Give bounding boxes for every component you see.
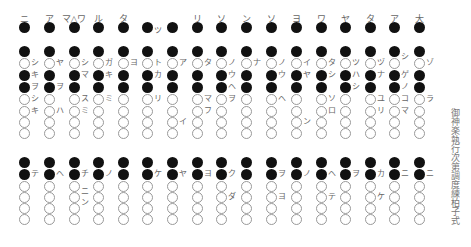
hole-open-icon xyxy=(44,181,55,192)
hole-open-icon xyxy=(365,181,376,192)
hole-open-icon xyxy=(167,203,178,214)
syllable-label: ヲ xyxy=(278,169,286,178)
hole-closed-icon xyxy=(266,46,277,57)
hole-closed-icon xyxy=(266,22,277,33)
hole-closed-icon xyxy=(414,22,425,33)
hole-open-icon xyxy=(93,128,104,139)
hole-open-icon xyxy=(389,106,400,117)
hole-closed-icon xyxy=(167,82,178,93)
hole-open-icon xyxy=(19,203,30,214)
hole-closed-icon xyxy=(241,22,252,33)
hole-closed-icon xyxy=(241,169,252,180)
syllable-label: ン xyxy=(81,198,89,207)
hole-open-icon xyxy=(216,203,227,214)
syllable-label: シ xyxy=(352,82,360,91)
hole-closed-icon xyxy=(142,157,153,168)
hole-open-icon xyxy=(241,214,252,225)
hole-open-icon xyxy=(44,214,55,225)
hole-closed-icon xyxy=(118,169,129,180)
hole-open-icon xyxy=(414,181,425,192)
hole-open-icon xyxy=(316,181,327,192)
syllable-label: マ xyxy=(204,94,212,103)
hole-closed-icon xyxy=(340,46,351,57)
hole-open-icon xyxy=(340,214,351,225)
hole-open-icon xyxy=(241,181,252,192)
hole-closed-icon xyxy=(167,46,178,57)
hole-closed-icon xyxy=(118,82,129,93)
hole-closed-icon xyxy=(389,169,400,180)
hole-open-icon xyxy=(365,214,376,225)
syllable-label: ン xyxy=(303,117,311,126)
hole-closed-icon xyxy=(365,169,376,180)
hole-closed-icon xyxy=(142,22,153,33)
hole-open-icon xyxy=(216,128,227,139)
hole-closed-icon xyxy=(291,157,302,168)
hole-closed-icon xyxy=(216,82,227,93)
hole-closed-icon xyxy=(118,70,129,81)
syllable-label: タ xyxy=(328,58,336,67)
hole-open-icon xyxy=(192,106,203,117)
hole-open-icon xyxy=(241,94,252,105)
hole-closed-icon xyxy=(414,70,425,81)
hole-closed-icon xyxy=(340,70,351,81)
hole-open-icon xyxy=(69,117,80,128)
hole-open-icon xyxy=(142,128,153,139)
hole-open-icon xyxy=(167,192,178,203)
syllable-label: イ xyxy=(303,58,311,67)
hole-open-icon xyxy=(340,203,351,214)
hole-open-icon xyxy=(118,58,129,69)
hole-closed-icon xyxy=(316,46,327,57)
hole-open-icon xyxy=(44,203,55,214)
syllable-label: ラ xyxy=(426,94,434,103)
syllable-label: ロ xyxy=(328,106,336,115)
syllable-label: ヨ xyxy=(204,169,212,178)
hole-open-icon xyxy=(19,214,30,225)
hole-open-icon xyxy=(69,128,80,139)
syllable-label: ヤ xyxy=(303,70,311,79)
hole-closed-icon xyxy=(266,82,277,93)
hole-open-icon xyxy=(142,203,153,214)
hole-closed-icon xyxy=(291,70,302,81)
syllable-label: フ xyxy=(204,106,212,115)
syllable-label: ノ xyxy=(228,58,236,67)
hole-closed-icon xyxy=(291,82,302,93)
hole-open-icon xyxy=(44,94,55,105)
hole-closed-icon xyxy=(93,22,104,33)
hole-closed-icon xyxy=(192,82,203,93)
hole-closed-icon xyxy=(44,46,55,57)
hole-closed-icon xyxy=(316,169,327,180)
hole-closed-icon xyxy=(365,82,376,93)
syllable-label: ガ xyxy=(105,58,113,67)
syllable-label: ソ xyxy=(328,94,336,103)
hole-open-icon xyxy=(414,192,425,203)
hole-open-icon xyxy=(167,106,178,117)
hole-closed-icon xyxy=(192,22,203,33)
hole-closed-icon xyxy=(365,157,376,168)
hole-open-icon xyxy=(69,94,80,105)
hole-open-icon xyxy=(69,203,80,214)
hole-open-icon xyxy=(316,58,327,69)
hole-open-icon xyxy=(167,58,178,69)
syllable-label: キ xyxy=(105,70,113,79)
hole-open-icon xyxy=(340,181,351,192)
hole-closed-icon xyxy=(340,169,351,180)
hole-closed-icon xyxy=(192,169,203,180)
syllable-label: シ xyxy=(31,94,39,103)
hole-closed-icon xyxy=(414,82,425,93)
hole-closed-icon xyxy=(19,46,30,57)
hole-open-icon xyxy=(266,181,277,192)
syllable-label: ヤ xyxy=(56,58,64,67)
hole-open-icon xyxy=(216,181,227,192)
syllable-label: テ xyxy=(31,169,39,178)
hole-closed-icon xyxy=(69,82,80,93)
flute-tablature-score: ニアマ△ワルタリソンソヨワヤタア大シキヲシキヤヲハシマスミガキミヨツトカリアイタ… xyxy=(0,0,471,247)
hole-closed-icon xyxy=(414,46,425,57)
hole-closed-icon xyxy=(216,46,227,57)
hole-open-icon xyxy=(340,192,351,203)
hole-closed-icon xyxy=(167,169,178,180)
hole-open-icon xyxy=(266,58,277,69)
hole-open-icon xyxy=(291,106,302,117)
hole-open-icon xyxy=(118,181,129,192)
syllable-label: テ xyxy=(328,192,336,201)
syllable-label: ヲ xyxy=(352,169,360,178)
